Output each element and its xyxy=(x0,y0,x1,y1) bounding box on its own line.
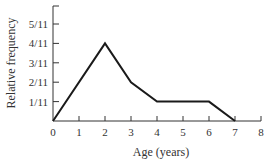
y-ticks: 1/112/113/114/115/11 xyxy=(29,18,59,108)
y-tick-label: 2/11 xyxy=(29,76,48,88)
x-tick-label: 8 xyxy=(258,126,264,138)
y-axis-label: Relative frequency xyxy=(4,18,18,109)
y-tick-label: 1/11 xyxy=(29,96,48,108)
x-tick-label: 1 xyxy=(76,126,82,138)
x-tick-label: 2 xyxy=(102,126,108,138)
x-axis-label: Age (years) xyxy=(133,145,189,159)
x-tick-label: 0 xyxy=(50,126,56,138)
y-tick-label: 3/11 xyxy=(29,57,48,69)
x-tick-label: 3 xyxy=(128,126,134,138)
x-tick-label: 7 xyxy=(232,126,238,138)
x-tick-label: 4 xyxy=(154,126,160,138)
frequency-polygon-chart: 1/112/113/114/115/11 012345678 Age (year… xyxy=(0,0,268,163)
data-line xyxy=(53,43,235,121)
x-tick-label: 6 xyxy=(206,126,212,138)
y-tick-label: 4/11 xyxy=(29,37,48,49)
x-tick-label: 5 xyxy=(180,126,186,138)
y-tick-label: 5/11 xyxy=(29,18,48,30)
